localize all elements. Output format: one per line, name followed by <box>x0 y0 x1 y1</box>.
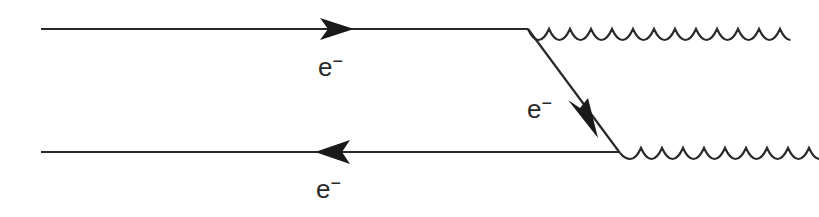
bottom-photon-line <box>620 148 819 159</box>
top-electron-symbol: e <box>318 52 332 82</box>
bottom-electron-charge: − <box>330 173 341 193</box>
bottom-electron-label: e− <box>316 176 341 202</box>
internal-electron-line <box>528 29 620 153</box>
top-electron-charge: − <box>332 51 343 71</box>
feynman-diagram <box>0 0 819 217</box>
internal-electron-label: e− <box>527 96 552 122</box>
top-photon-line <box>528 29 791 40</box>
internal-electron-symbol: e <box>527 94 541 124</box>
bottom-electron-symbol: e <box>316 174 330 204</box>
top-electron-label: e− <box>318 54 343 80</box>
internal-electron-charge: − <box>541 93 552 113</box>
